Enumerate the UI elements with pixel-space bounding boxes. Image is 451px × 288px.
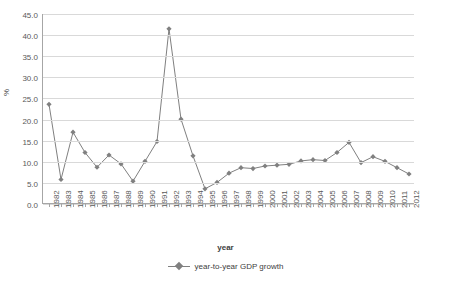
x-axis-tick-label-text: 1985 (88, 190, 97, 208)
chart-legend: year-to-year GDP growth (0, 262, 451, 271)
y-axis-tick-label: 40.0 (22, 32, 38, 41)
x-axis-tick (181, 204, 182, 207)
x-axis-tick (325, 204, 326, 207)
x-axis-tick-label-text: 2005 (328, 190, 337, 208)
legend-label: year-to-year GDP growth (195, 262, 284, 271)
x-axis-tick-label-text: 1991 (160, 190, 169, 208)
x-axis-tick-label-text: 1989 (136, 190, 145, 208)
y-gridline: 35.0 (43, 56, 414, 57)
y-axis-tick-label: 0.0 (27, 201, 38, 210)
y-gridline: 20.0 (43, 120, 414, 121)
y-axis-tick-label: 25.0 (22, 95, 38, 104)
x-axis-tick-label-text: 1982 (52, 190, 61, 208)
y-axis-tick-label: 10.0 (22, 158, 38, 167)
x-axis-tick (289, 204, 290, 207)
x-axis-tick-label-text: 1987 (112, 190, 121, 208)
x-axis-tick (253, 204, 254, 207)
x-axis-tick (109, 204, 110, 207)
x-axis-tick (229, 204, 230, 207)
x-axis-tick-label-text: 1993 (184, 190, 193, 208)
y-gridline: 45.0 (43, 14, 414, 15)
x-axis-tick-label-text: 1986 (100, 190, 109, 208)
x-axis-tick (157, 204, 158, 207)
x-axis-tick-label-text: 2000 (268, 190, 277, 208)
x-axis-tick (337, 204, 338, 207)
x-axis-tick (193, 204, 194, 207)
x-axis-tick (241, 204, 242, 207)
plot-area: 0.05.010.015.020.025.030.035.040.045.019… (42, 14, 414, 204)
y-gridline: 40.0 (43, 35, 414, 36)
y-axis-tick-label: 30.0 (22, 74, 38, 83)
x-axis-tick-label-text: 2012 (412, 190, 421, 208)
x-axis-tick (397, 204, 398, 207)
gdp-growth-line-chart: % 0.05.010.015.020.025.030.035.040.045.0… (0, 0, 451, 288)
x-axis-tick-label-text: 1996 (220, 190, 229, 208)
x-axis-tick-label-text: 1990 (148, 190, 157, 208)
x-axis-tick-label-text: 2008 (364, 190, 373, 208)
x-axis-tick-label-text: 2011 (400, 191, 409, 208)
x-axis-title: year (0, 243, 451, 252)
x-axis-tick (349, 204, 350, 207)
x-axis-tick (85, 204, 86, 207)
x-axis-tick-label-text: 1999 (256, 190, 265, 208)
y-gridline: 10.0 (43, 162, 414, 163)
x-axis-tick-label-text: 2010 (388, 190, 397, 208)
x-axis-tick (145, 204, 146, 207)
x-axis-tick-label-text: 2002 (292, 190, 301, 208)
x-axis-tick-label-text: 1988 (124, 190, 133, 208)
y-gridline: 5.0 (43, 183, 414, 184)
y-gridline: 30.0 (43, 77, 414, 78)
x-axis-tick (61, 204, 62, 207)
x-axis-tick (301, 204, 302, 207)
legend-marker-icon (168, 262, 190, 271)
x-axis-tick (97, 204, 98, 207)
x-axis-tick (49, 204, 50, 207)
y-axis-tick-label: 45.0 (22, 11, 38, 20)
y-gridline: 25.0 (43, 98, 414, 99)
x-axis-tick-label-text: 2001 (280, 190, 289, 208)
x-axis-tick (277, 204, 278, 207)
x-axis-tick (121, 204, 122, 207)
x-axis-tick-label-text: 1983 (64, 190, 73, 208)
x-axis-tick-label-text: 1997 (232, 190, 241, 208)
x-axis-tick-label-text: 2004 (316, 190, 325, 208)
x-axis-tick (373, 204, 374, 207)
y-axis-title: % (2, 89, 11, 96)
x-axis-tick (385, 204, 386, 207)
x-axis-tick-label-text: 1994 (196, 190, 205, 208)
x-axis-tick (217, 204, 218, 207)
y-axis-tick-label: 35.0 (22, 53, 38, 62)
x-axis-tick (361, 204, 362, 207)
y-axis-tick-label: 5.0 (27, 179, 38, 188)
x-axis-tick (73, 204, 74, 207)
y-axis-tick-label: 20.0 (22, 116, 38, 125)
x-axis-tick-label-text: 2006 (340, 190, 349, 208)
x-axis-tick-label-text: 2003 (304, 190, 313, 208)
x-axis-tick-label-text: 1998 (244, 190, 253, 208)
x-axis-tick-label-text: 1984 (76, 190, 85, 208)
series-line (43, 14, 415, 204)
x-axis-tick (265, 204, 266, 207)
x-axis-tick (133, 204, 134, 207)
y-gridline: 15.0 (43, 141, 414, 142)
x-axis-tick (205, 204, 206, 207)
y-axis-tick-label: 15.0 (22, 137, 38, 146)
x-axis-tick-label-text: 2007 (352, 190, 361, 208)
x-axis-tick-label-text: 1995 (208, 190, 217, 208)
x-axis-tick (409, 204, 410, 207)
x-axis-tick (169, 204, 170, 207)
x-axis-tick-label-text: 1992 (172, 190, 181, 208)
x-axis-tick-label-text: 2009 (376, 190, 385, 208)
x-axis-tick (313, 204, 314, 207)
